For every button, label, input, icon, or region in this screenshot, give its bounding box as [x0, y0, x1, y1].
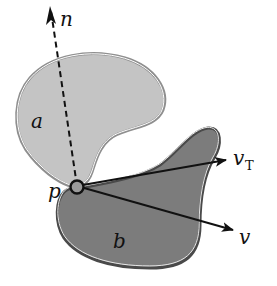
diagram-canvas: n a p b v T v	[0, 0, 277, 286]
label-n: n	[60, 7, 73, 31]
label-b: b	[113, 229, 126, 253]
arrowhead-icon	[46, 6, 56, 25]
contact-point-circle-icon	[71, 181, 84, 194]
contact-point	[71, 181, 84, 194]
label-vT: v	[233, 146, 245, 170]
label-vT-subscript: T	[245, 158, 254, 173]
label-p: p	[48, 179, 61, 203]
label-v: v	[239, 225, 251, 249]
contact-diagram: n a p b v T v	[0, 0, 277, 286]
label-a: a	[31, 109, 43, 133]
